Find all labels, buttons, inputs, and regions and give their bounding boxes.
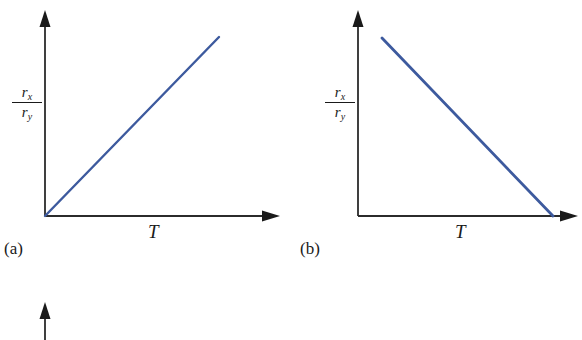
panel-b-fraction-bar xyxy=(325,102,355,103)
panel-a-y-axis-label-numerator-sub: x xyxy=(28,91,32,102)
panel-a-y-axis-label: rx ry xyxy=(12,84,42,121)
panel-b-y-axis-label-numerator: rx xyxy=(325,84,355,101)
panel-a-x-axis-label: T xyxy=(148,222,159,241)
figure-root: rx ry T (a) rx ry T (b) xyxy=(0,0,582,340)
panel-a-y-axis-label-numerator: rx xyxy=(12,84,42,101)
panel-b-data-line xyxy=(382,38,553,216)
figure-canvas xyxy=(0,0,582,340)
panel-b-y-axis-label: rx ry xyxy=(325,84,355,121)
panel-a-tag: (a) xyxy=(4,240,23,257)
panel-b-x-axis-arrow-icon xyxy=(560,211,578,222)
panel-b-y-axis-label-denominator: ry xyxy=(325,104,355,121)
panel-b-tag: (b) xyxy=(300,240,320,257)
panel-a xyxy=(40,10,281,222)
panel-a-y-axis-label-denominator: ry xyxy=(12,104,42,121)
panel-a-y-axis-label-denominator-sub: y xyxy=(28,111,32,122)
panel-b xyxy=(353,10,579,222)
panel-a-x-axis-arrow-icon xyxy=(262,211,280,222)
panel-a-data-line xyxy=(45,37,219,216)
panel-a-y-axis-arrow-icon xyxy=(40,10,51,27)
panel-b-y-axis-label-numerator-sub: x xyxy=(341,91,345,102)
panel-b-y-axis-label-denominator-sub: y xyxy=(341,111,345,122)
panel-a-fraction-bar xyxy=(12,102,42,103)
panel-c-partial xyxy=(40,302,51,340)
panel-b-x-axis-label: T xyxy=(455,222,466,241)
panel-c-y-axis-arrow-icon xyxy=(40,302,51,319)
panel-b-y-axis-arrow-icon xyxy=(353,10,364,27)
